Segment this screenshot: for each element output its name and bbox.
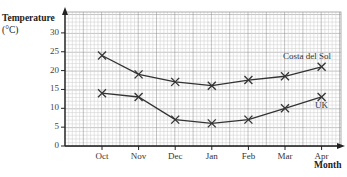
y-tick-label: 0 — [39, 140, 59, 150]
y-tick-label: 5 — [39, 121, 59, 131]
x-tick-label: Oct — [87, 151, 117, 161]
y-tick-label: 15 — [39, 83, 59, 93]
chart-grid — [65, 12, 341, 147]
x-tick-label: Apr — [307, 151, 337, 161]
series-label: Costa del Sol — [283, 51, 331, 61]
y-tick-label: 30 — [39, 27, 59, 37]
y-tick-label: 10 — [39, 102, 59, 112]
x-tick-label: Dec — [160, 151, 190, 161]
x-axis-title: Month — [314, 160, 341, 170]
x-tick-label: Feb — [233, 151, 263, 161]
y-axis-title-main: Temperature — [2, 12, 55, 24]
chart-lines — [98, 52, 326, 128]
series-uk — [98, 89, 326, 127]
x-tick-label: Nov — [124, 151, 154, 161]
series-label: UK — [315, 100, 328, 110]
y-tick-label: 25 — [39, 46, 59, 56]
x-tick-label: Jan — [197, 151, 227, 161]
y-tick-label: 20 — [39, 65, 59, 75]
x-tick-label: Mar — [270, 151, 300, 161]
